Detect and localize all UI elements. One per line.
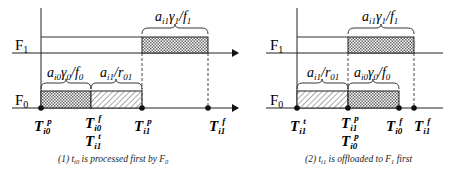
marker-label: Ti1f — [414, 116, 431, 136]
f0-label: F0 — [270, 92, 283, 110]
f0-brace-1-label: ai1/r01 — [307, 65, 339, 82]
f0-label: F0 — [15, 92, 28, 110]
time-marker-dot — [294, 105, 300, 111]
panel-2: F1 F0 ai1γ1/f1 ai1/r01 ai0γ0/f0 Ti1t Ti1… — [266, 8, 443, 165]
panel-1: F1 F0 ai1γ1/f1 ai0γ0/f0 ai1/r01 Ti0p Ti0… — [12, 8, 238, 165]
time-marker-dot — [205, 105, 211, 111]
scheduling-diagram: F1 F0 ai1γ1/f1 ai0γ0/f0 ai1/r01 Ti0p Ti0… — [0, 0, 454, 178]
time-marker-dot — [139, 105, 145, 111]
marker-label: Ti1p — [134, 116, 152, 136]
f1-label: F1 — [15, 37, 28, 55]
f0-transmit-block — [91, 91, 142, 108]
marker-label: Ti1t — [290, 116, 306, 136]
time-marker-dot — [396, 105, 402, 111]
f0-transmit-block — [297, 91, 348, 108]
marker-label: Ti0f — [386, 116, 403, 136]
f0-brace-2 — [91, 79, 142, 89]
marker-label: Ti0p — [34, 116, 52, 136]
marker-label: Ti1f — [209, 116, 226, 136]
marker-label: Ti1p — [341, 113, 359, 133]
marker-label: Ti0f — [85, 113, 102, 133]
f0-brace-2-label: ai1/r01 — [100, 65, 132, 82]
f1-processing-block — [142, 37, 208, 53]
time-marker-dot — [38, 105, 44, 111]
f0-brace-1 — [297, 79, 348, 89]
f1-label: F1 — [270, 37, 283, 55]
time-marker-dot — [345, 105, 351, 111]
f1-processing-block — [348, 37, 414, 53]
marker-label: Ti0p — [341, 131, 359, 151]
marker-label: Ti1t — [85, 131, 101, 151]
f0-brace-2-label: ai0γ0/f0 — [354, 65, 391, 82]
f1-brace-label: ai1γ1/f1 — [362, 9, 398, 26]
f0-compute-block — [41, 91, 91, 108]
f1-brace-label: ai1γ1/f1 — [155, 9, 191, 26]
panel-2-caption: (2) ti1 is offloaded to F1 first — [305, 154, 412, 165]
f0-brace-1-label: ai0γ0/f0 — [47, 65, 84, 82]
f0-compute-block — [348, 91, 399, 108]
panel-1-caption: (1) ti0 is processed first by F0 — [58, 154, 169, 165]
time-marker-dot — [411, 105, 417, 111]
